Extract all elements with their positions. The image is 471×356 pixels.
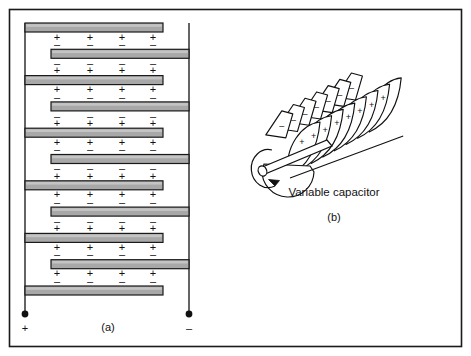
plate-2-left	[25, 76, 163, 85]
charge-sign-gap2-bottom-0: –	[54, 91, 61, 103]
charge-sign-gap0-bottom-2: –	[119, 38, 126, 50]
charge-sign-gap4-bottom-3: –	[150, 143, 157, 155]
negative-terminal-dot	[186, 311, 193, 318]
charge-sign-gap8-bottom-2: –	[119, 248, 126, 260]
rotor-charge-1: +	[311, 131, 316, 141]
charge-sign-gap0-bottom-1: –	[87, 38, 94, 50]
rotor-charge-3: +	[334, 118, 339, 128]
plate-highlight	[26, 235, 162, 238]
plate-highlight	[52, 261, 188, 264]
capacitor-figure: +–+–+–+––+–+–+–++–+–+–+––+–+–+–++–+–+–+–…	[0, 0, 471, 356]
charge-sign-gap7-bottom-3: +	[150, 222, 156, 234]
charge-sign-gap3-bottom-3: +	[150, 117, 156, 129]
charge-sign-gap5-bottom-1: +	[87, 170, 93, 182]
charge-sign-gap8-bottom-3: –	[150, 248, 157, 260]
plate-highlight	[26, 287, 162, 290]
charge-sign-gap6-bottom-0: –	[54, 196, 61, 208]
rotor-charge-2: +	[323, 125, 328, 135]
charge-sign-gap9-bottom-2: –	[119, 275, 126, 287]
panel-a-label: (a)	[101, 321, 114, 333]
plate-0-left	[25, 23, 163, 32]
plate-6-left	[25, 181, 163, 190]
charge-sign-gap9-bottom-3: –	[150, 275, 157, 287]
charge-sign-gap2-bottom-2: –	[119, 91, 126, 103]
charge-sign-gap5-bottom-0: +	[54, 170, 60, 182]
charge-sign-gap5-bottom-3: +	[150, 170, 156, 182]
plate-highlight	[26, 129, 162, 132]
charge-sign-gap1-bottom-2: +	[119, 64, 125, 76]
stator-charge-2: –	[302, 109, 307, 119]
charge-sign-gap4-bottom-2: –	[119, 143, 126, 155]
rotor-charge-4: +	[346, 112, 351, 122]
plate-10-left	[25, 286, 163, 295]
plate-highlight	[52, 208, 188, 211]
charge-sign-gap3-bottom-2: +	[119, 117, 125, 129]
variable-capacitor-caption: Variable capacitor	[288, 186, 379, 198]
stator-charge-6: –	[349, 83, 354, 93]
panel-b-label: (b)	[327, 211, 340, 223]
stator-charge-5: –	[337, 90, 342, 100]
charge-sign-gap8-bottom-1: –	[87, 248, 94, 260]
plate-highlight	[26, 77, 162, 80]
plate-highlight	[26, 182, 162, 185]
charge-sign-gap9-bottom-1: –	[87, 275, 94, 287]
charge-sign-gap1-bottom-3: +	[150, 64, 156, 76]
rotor-charge-6: +	[369, 100, 374, 110]
stator-charge-1: –	[291, 115, 296, 125]
plate-8-left	[25, 233, 163, 242]
charge-sign-gap6-bottom-2: –	[119, 196, 126, 208]
charge-sign-gap7-bottom-2: +	[119, 222, 125, 234]
charge-sign-gap2-bottom-3: –	[150, 91, 157, 103]
plate-highlight	[26, 24, 162, 27]
charge-sign-gap7-bottom-1: +	[87, 222, 93, 234]
figure-container: +–+–+–+––+–+–+–++–+–+–+––+–+–+–++–+–+–+–…	[0, 0, 471, 356]
charge-sign-gap1-bottom-0: +	[54, 64, 60, 76]
charge-sign-gap4-bottom-0: –	[54, 143, 61, 155]
charge-sign-gap4-bottom-1: –	[87, 143, 94, 155]
rotor-charge-5: +	[357, 106, 362, 116]
stator-charge-4: –	[326, 96, 331, 106]
rotor-charge-7: +	[381, 93, 386, 103]
charge-sign-gap5-bottom-2: +	[119, 170, 125, 182]
charge-sign-gap6-bottom-1: –	[87, 196, 94, 208]
charge-sign-gap9-bottom-0: –	[54, 275, 61, 287]
plate-highlight	[52, 156, 188, 159]
positive-terminal-dot	[22, 311, 29, 318]
plate-highlight	[52, 103, 188, 106]
charge-sign-gap2-bottom-1: –	[87, 91, 94, 103]
charge-sign-gap7-bottom-0: +	[54, 222, 60, 234]
charge-sign-gap0-bottom-0: –	[54, 38, 61, 50]
charge-sign-gap3-bottom-0: +	[54, 117, 60, 129]
stator-charge-0: –	[279, 121, 284, 131]
charge-sign-gap3-bottom-1: +	[87, 117, 93, 129]
charge-sign-gap6-bottom-3: –	[150, 196, 157, 208]
rotor-charge-0: +	[299, 137, 304, 147]
charge-sign-gap0-bottom-3: –	[150, 38, 157, 50]
charge-sign-gap1-bottom-1: +	[87, 64, 93, 76]
positive-terminal-label: +	[22, 322, 28, 334]
negative-terminal-label: –	[186, 322, 193, 334]
stator-charge-3: –	[314, 102, 319, 112]
plate-highlight	[52, 51, 188, 54]
charge-sign-gap8-bottom-0: –	[54, 248, 61, 260]
plate-4-left	[25, 128, 163, 137]
